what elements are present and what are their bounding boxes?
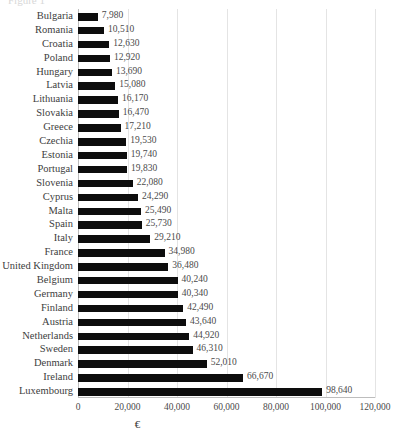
category-label: Denmark: [34, 356, 73, 370]
category-label: Belgium: [37, 273, 73, 287]
value-label: 19,740: [131, 148, 157, 162]
value-label: 19,530: [130, 134, 156, 148]
bar: [78, 166, 127, 174]
gridline: [375, 9, 376, 398]
bar-row: Sweden46,310: [78, 342, 375, 356]
plot-area: Bulgaria7,980Romania10,510Croatia12,630P…: [78, 9, 375, 398]
value-label: 36,480: [172, 259, 198, 273]
bar-row: Greece17,210: [78, 120, 375, 134]
value-label: 98,640: [326, 384, 352, 398]
bar: [78, 138, 126, 146]
value-label: 7,980: [102, 9, 123, 23]
bar: [78, 346, 193, 354]
bar: [78, 360, 207, 368]
category-label: Estonia: [42, 148, 74, 162]
x-tick-label: 60,000: [213, 402, 239, 413]
bar-row: Malta25,490: [78, 204, 375, 218]
bar: [78, 55, 110, 63]
value-label: 12,630: [113, 37, 139, 51]
bar: [78, 96, 118, 104]
bar-row: Estonia19,740: [78, 148, 375, 162]
category-label: Italy: [54, 231, 73, 245]
bar: [78, 333, 189, 341]
value-label: 13,690: [116, 65, 142, 79]
bar-row: Czechia19,530: [78, 134, 375, 148]
value-label: 42,490: [187, 301, 213, 315]
x-tick-label: 80,000: [263, 402, 289, 413]
category-label: Czechia: [39, 134, 73, 148]
category-label: Greece: [43, 120, 73, 134]
category-label: Cyprus: [43, 190, 73, 204]
bar-chart: Figure 1 Bulgaria7,980Romania10,510Croat…: [0, 0, 399, 447]
category-label: Croatia: [42, 37, 73, 51]
category-label: United Kingdom: [2, 259, 73, 273]
category-label: Luxembourg: [19, 384, 73, 398]
value-label: 22,080: [137, 176, 163, 190]
bar-row: Latvia15,080: [78, 78, 375, 92]
category-label: Slovakia: [36, 106, 73, 120]
bar: [78, 319, 186, 327]
x-axis-title: €: [78, 418, 197, 430]
x-tick-label: 40,000: [164, 402, 190, 413]
value-label: 24,290: [142, 190, 168, 204]
bar-row: Romania10,510: [78, 23, 375, 37]
value-label: 12,920: [114, 51, 140, 65]
bar: [78, 124, 121, 132]
bar-row: Netherlands44,920: [78, 329, 375, 343]
x-tick-label: 20,000: [114, 402, 140, 413]
bar-row: Germany40,340: [78, 287, 375, 301]
x-tick-label: 120,000: [360, 402, 391, 413]
bar: [78, 180, 133, 188]
category-label: Poland: [44, 51, 73, 65]
bar-row: Bulgaria7,980: [78, 9, 375, 23]
bar: [78, 277, 178, 285]
bar: [78, 291, 178, 299]
bar-row: Hungary13,690: [78, 65, 375, 79]
value-label: 34,980: [169, 245, 195, 259]
value-label: 52,010: [211, 356, 237, 370]
bar: [78, 41, 109, 49]
category-label: Romania: [35, 23, 73, 37]
value-label: 40,240: [182, 273, 208, 287]
bar: [78, 13, 98, 21]
category-label: Ireland: [43, 370, 73, 384]
bar-row: Luxembourg98,640: [78, 384, 375, 398]
value-label: 10,510: [108, 23, 134, 37]
x-tick-label: 100,000: [310, 402, 341, 413]
bar: [78, 69, 112, 77]
bar-row: United Kingdom36,480: [78, 259, 375, 273]
category-label: Spain: [49, 217, 73, 231]
bar-row: Slovakia16,470: [78, 106, 375, 120]
category-label: Latvia: [46, 78, 73, 92]
bar-row: Cyprus24,290: [78, 190, 375, 204]
bar-row: Croatia12,630: [78, 37, 375, 51]
value-label: 19,830: [131, 162, 157, 176]
bar-row: Belgium40,240: [78, 273, 375, 287]
value-label: 25,730: [146, 217, 172, 231]
bar: [78, 208, 141, 216]
category-label: Hungary: [36, 65, 73, 79]
bar-row: Italy29,210: [78, 231, 375, 245]
category-label: Finland: [41, 301, 73, 315]
bar: [78, 221, 142, 229]
bar: [78, 388, 322, 396]
bar-row: Portugal19,830: [78, 162, 375, 176]
bar-row: Ireland66,670: [78, 370, 375, 384]
bar-row: France34,980: [78, 245, 375, 259]
cropped-title-text: Figure 1: [8, 0, 45, 6]
bar-row: Slovenia22,080: [78, 176, 375, 190]
x-tick-label: 0: [76, 402, 81, 413]
bar-row: Spain25,730: [78, 217, 375, 231]
category-label: Bulgaria: [37, 9, 73, 23]
bar: [78, 374, 243, 382]
bar-row: Austria43,640: [78, 315, 375, 329]
bar: [78, 82, 115, 90]
bar: [78, 249, 165, 257]
category-label: France: [44, 245, 73, 259]
value-label: 17,210: [125, 120, 151, 134]
bar: [78, 235, 150, 243]
bar-row: Denmark52,010: [78, 356, 375, 370]
bar-row: Poland12,920: [78, 51, 375, 65]
category-label: Netherlands: [22, 329, 73, 343]
value-label: 25,490: [145, 204, 171, 218]
